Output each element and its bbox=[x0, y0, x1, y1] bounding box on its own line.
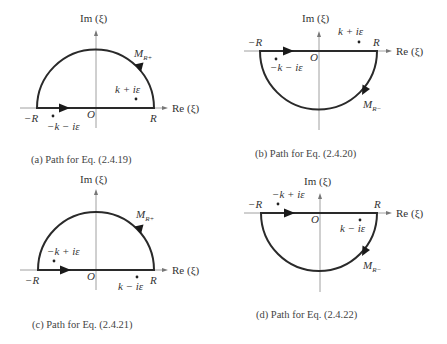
minus-R-label: −R bbox=[248, 198, 262, 210]
plus-R-label: R bbox=[149, 274, 157, 286]
imag-axis-arrow-icon bbox=[94, 189, 98, 195]
arc-arrow-icon bbox=[135, 63, 144, 73]
origin-label: O bbox=[87, 108, 95, 120]
minus-R-label: −R bbox=[24, 112, 38, 124]
real-axis-arrow-icon bbox=[386, 211, 392, 215]
plus-R-label: R bbox=[149, 112, 157, 124]
pole-label: k − iε bbox=[340, 222, 366, 234]
pole-dot bbox=[358, 41, 361, 44]
panel-caption: (a) Path for Eq. (2.4.19) bbox=[31, 154, 132, 166]
origin-label: O bbox=[310, 51, 318, 63]
panel-caption: (b) Path for Eq. (2.4.20) bbox=[255, 148, 357, 160]
real-axis-arrow-icon bbox=[162, 268, 168, 272]
imag-axis-label: Im (ξ) bbox=[80, 12, 108, 25]
origin-label: O bbox=[87, 270, 95, 282]
imag-axis-arrow-icon bbox=[317, 31, 321, 37]
real-axis-label: Re (ξ) bbox=[396, 45, 424, 58]
minus-R-label: −R bbox=[248, 36, 262, 48]
imag-axis-arrow-icon bbox=[94, 30, 98, 36]
real-axis-label: Re (ξ) bbox=[172, 264, 200, 277]
pole-dot bbox=[277, 203, 280, 206]
real-axis-label: Re (ξ) bbox=[172, 102, 200, 115]
pole-label: −k + iε bbox=[272, 188, 305, 200]
pole-dot bbox=[135, 98, 138, 101]
panel-caption: (c) Path for Eq. (2.4.21) bbox=[32, 319, 133, 331]
pole-label: k + iε bbox=[338, 25, 364, 37]
pole-label: −k − iε bbox=[270, 61, 303, 73]
panel-b: Im (ξ) Re (ξ) MR− −R R O k + iε −k − iε … bbox=[244, 12, 424, 160]
panel-caption: (d) Path for Eq. (2.4.22) bbox=[256, 309, 358, 321]
pole-label: −k − iε bbox=[47, 120, 80, 132]
pole-label: k + iε bbox=[115, 83, 141, 95]
pole-label: k − iε bbox=[118, 280, 144, 292]
real-axis-label: Re (ξ) bbox=[396, 207, 424, 220]
plus-R-label: R bbox=[373, 198, 381, 210]
panel-a: Im (ξ) Re (ξ) MR+ −R R O k + iε −k − iε … bbox=[20, 12, 200, 166]
pole-label: −k + iε bbox=[47, 245, 80, 257]
pole-dot bbox=[52, 115, 55, 118]
panel-c: Im (ξ) Re (ξ) MR+ −R R O −k + iε k − iε … bbox=[20, 173, 200, 331]
origin-label: O bbox=[311, 213, 319, 225]
real-segment-arrow-icon bbox=[283, 47, 294, 56]
arc-label: MR− bbox=[362, 259, 381, 274]
imag-axis-arrow-icon bbox=[318, 193, 322, 199]
pole-dot bbox=[136, 276, 139, 279]
contour-figure: Im (ξ) Re (ξ) MR+ −R R O k + iε −k − iε … bbox=[0, 0, 447, 344]
real-segment-arrow-icon bbox=[59, 104, 70, 113]
arc-label: MR+ bbox=[135, 208, 154, 223]
pole-dot bbox=[359, 219, 362, 222]
contour-path bbox=[260, 51, 377, 110]
real-segment-arrow-icon bbox=[60, 266, 71, 275]
real-axis-arrow-icon bbox=[386, 49, 392, 53]
arc-label: MR− bbox=[362, 98, 381, 113]
imag-axis-label: Im (ξ) bbox=[80, 173, 108, 186]
imag-axis-label: Im (ξ) bbox=[302, 12, 330, 25]
real-segment-arrow-icon bbox=[284, 209, 295, 218]
pole-dot bbox=[275, 58, 278, 61]
panel-d: Im (ξ) Re (ξ) MR− −R R O −k + iε k − iε … bbox=[244, 175, 424, 321]
pole-dot bbox=[53, 260, 56, 263]
minus-R-label: −R bbox=[25, 274, 39, 286]
plus-R-label: R bbox=[372, 36, 380, 48]
real-axis-arrow-icon bbox=[162, 106, 168, 110]
imag-axis-label: Im (ξ) bbox=[304, 175, 332, 188]
arc-arrow-icon bbox=[135, 225, 144, 235]
arc-label: MR+ bbox=[133, 47, 152, 62]
